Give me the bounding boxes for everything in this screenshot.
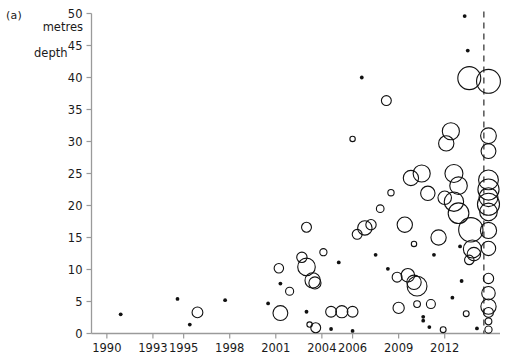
data-point [484,307,494,317]
data-point [403,170,418,185]
y-axis-title-line1: metres [43,20,83,34]
data-point [481,144,496,159]
data-point [431,230,446,245]
data-point [374,253,378,257]
x-tick-label: 2001 [261,341,290,355]
data-point [411,241,416,246]
data-point [485,326,492,333]
data-point [475,326,479,330]
figure-panel-a: (a) metres depth 05101520253035404550199… [0,0,505,362]
data-point [278,282,282,286]
data-point [326,306,337,317]
data-point [448,203,469,224]
data-point [297,252,307,262]
data-point [329,327,333,331]
data-point [266,302,270,306]
data-point [432,253,436,257]
data-point [482,286,496,300]
data-point [463,311,469,317]
x-tick-label: 2004 [307,341,336,355]
data-point [427,325,431,329]
x-tick-label: 1993 [138,341,167,355]
x-tick-label: 2009 [384,341,413,355]
data-point [463,14,467,18]
x-tick-label: 2006 [338,341,367,355]
y-tick-label: 10 [68,263,83,277]
data-point [386,267,390,271]
data-point [381,96,391,106]
data-point [477,193,499,215]
data-point [392,272,402,282]
y-axis-title: metres depth [28,8,83,86]
x-tick-label: 1995 [169,341,198,355]
y-tick-label: 35 [68,103,83,117]
data-point [350,136,355,141]
data-point [445,165,463,183]
y-tick-label: 0 [75,327,82,341]
y-tick-label: 5 [75,295,82,309]
data-point [460,279,464,283]
data-point [450,296,454,300]
data-point [414,301,421,308]
data-point [466,49,470,53]
y-axis-title-line2: depth [28,47,83,60]
data-point [393,302,404,313]
data-point [337,261,341,265]
data-point [192,307,203,318]
y-tick-label: 25 [68,167,83,181]
data-point [444,192,463,211]
x-tick-label: 1998 [215,341,244,355]
data-point [286,287,294,295]
data-point [480,203,498,221]
data-point [479,170,499,190]
data-point [426,300,435,309]
data-point [305,310,309,314]
data-point [483,273,493,283]
data-point [465,255,474,264]
data-point [397,217,412,232]
data-point [351,329,355,333]
data-point [485,318,492,325]
data-point [119,312,123,316]
data-point [360,76,364,80]
data-point [176,297,180,301]
data-point [481,128,497,144]
data-point [336,306,348,318]
data-point [273,306,288,321]
data-point [407,276,427,296]
data-point [302,222,312,232]
data-point [188,323,192,327]
data-point [421,319,425,323]
data-point [413,165,430,182]
data-point [388,190,394,196]
data-point [376,205,384,213]
y-tick-label: 15 [68,231,83,245]
x-tick-label: 2012 [430,341,459,355]
y-tick-label: 20 [68,199,83,213]
data-point [421,186,435,200]
scatter-series [119,14,501,333]
data-point [358,221,372,235]
panel-label: (a) [6,9,22,22]
data-point [223,298,227,302]
data-point [320,249,327,256]
data-point [459,218,483,242]
data-point [450,177,468,195]
data-point [458,245,462,249]
data-point [274,263,283,272]
data-point [421,315,425,319]
data-point [347,306,358,317]
y-tick-label: 30 [68,135,83,149]
data-point [305,273,320,288]
data-point [440,327,446,333]
x-tick-label: 1990 [92,341,121,355]
